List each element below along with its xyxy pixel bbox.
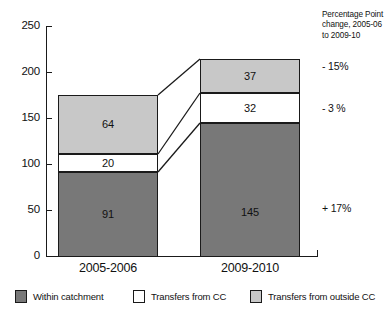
bar-segment-value: 32: [244, 103, 256, 114]
bar-segment-transfers-from-outside-cc[interactable]: 37: [200, 59, 300, 93]
x-axis-category-2005-2006: 2005-2006: [38, 261, 178, 275]
legend-swatch-icon: [15, 290, 27, 303]
y-axis-label-text: 250: [10, 20, 40, 32]
stacked-bar-chart: 250 200 150 100 50 0 64 20 91: [0, 0, 387, 319]
bar-segment-value: 37: [244, 71, 256, 82]
x-axis-category-2009-2010: 2009-2010: [180, 261, 320, 275]
x-axis-end-tick: [317, 250, 318, 257]
annotation-value-within-catchment: + 17%: [322, 203, 386, 214]
y-axis-label-text: 0: [10, 250, 40, 262]
legend-item-within-catchment[interactable]: Within catchment: [15, 286, 103, 306]
y-axis-label-0: 0: [4, 250, 40, 262]
y-axis-line: [46, 26, 47, 257]
chart-legend: Within catchment Transfers from CC Trans…: [0, 286, 387, 310]
y-axis-label-text: 100: [10, 158, 40, 170]
y-axis-label-text: 50: [10, 204, 40, 216]
y-tick-50: [46, 210, 52, 211]
bar-segment-transfers-from-cc[interactable]: 20: [58, 154, 158, 172]
y-axis-label-100: 100: [4, 158, 40, 170]
bar-segment-within-catchment[interactable]: 91: [58, 172, 158, 257]
legend-item-transfers-from-outside-cc[interactable]: Transfers from outside CC: [250, 286, 375, 306]
bar-segment-transfers-from-cc[interactable]: 32: [200, 93, 300, 123]
y-tick-150: [46, 118, 52, 119]
legend-swatch-icon: [250, 290, 262, 303]
legend-item-label: Transfers from outside CC: [268, 291, 375, 302]
y-tick-100: [46, 164, 52, 165]
y-axis-label-text: 150: [10, 112, 40, 124]
legend-swatch-icon: [133, 290, 145, 303]
legend-item-label: Transfers from CC: [151, 291, 226, 302]
y-tick-200: [46, 72, 52, 73]
bar-segment-value: 145: [241, 207, 259, 218]
bar-segment-within-catchment[interactable]: 145: [200, 123, 300, 257]
legend-item-transfers-from-cc[interactable]: Transfers from CC: [133, 286, 226, 306]
y-axis-label-250: 250: [4, 20, 40, 32]
bar-segment-transfers-from-outside-cc[interactable]: 64: [58, 95, 158, 154]
bar-segment-value: 91: [102, 209, 114, 220]
annotation-panel-heading: Percentage Point change, 2005-06 to 2009…: [322, 10, 386, 41]
bar-segment-value: 20: [102, 158, 114, 169]
annotation-value-transfers-from-cc: - 3 %: [322, 103, 386, 114]
legend-item-label: Within catchment: [33, 291, 103, 302]
bar-2009-2010[interactable]: 37 32 145: [200, 59, 300, 257]
y-axis-label-200: 200: [4, 66, 40, 78]
bar-segment-value: 64: [102, 119, 114, 130]
y-axis-label-text: 200: [10, 66, 40, 78]
annotation-value-transfers-from-outside-cc: - 15%: [322, 61, 386, 72]
y-axis-label-150: 150: [4, 112, 40, 124]
y-axis-label-50: 50: [4, 204, 40, 216]
y-tick-250: [46, 26, 52, 27]
bar-2005-2006[interactable]: 64 20 91: [58, 95, 158, 257]
